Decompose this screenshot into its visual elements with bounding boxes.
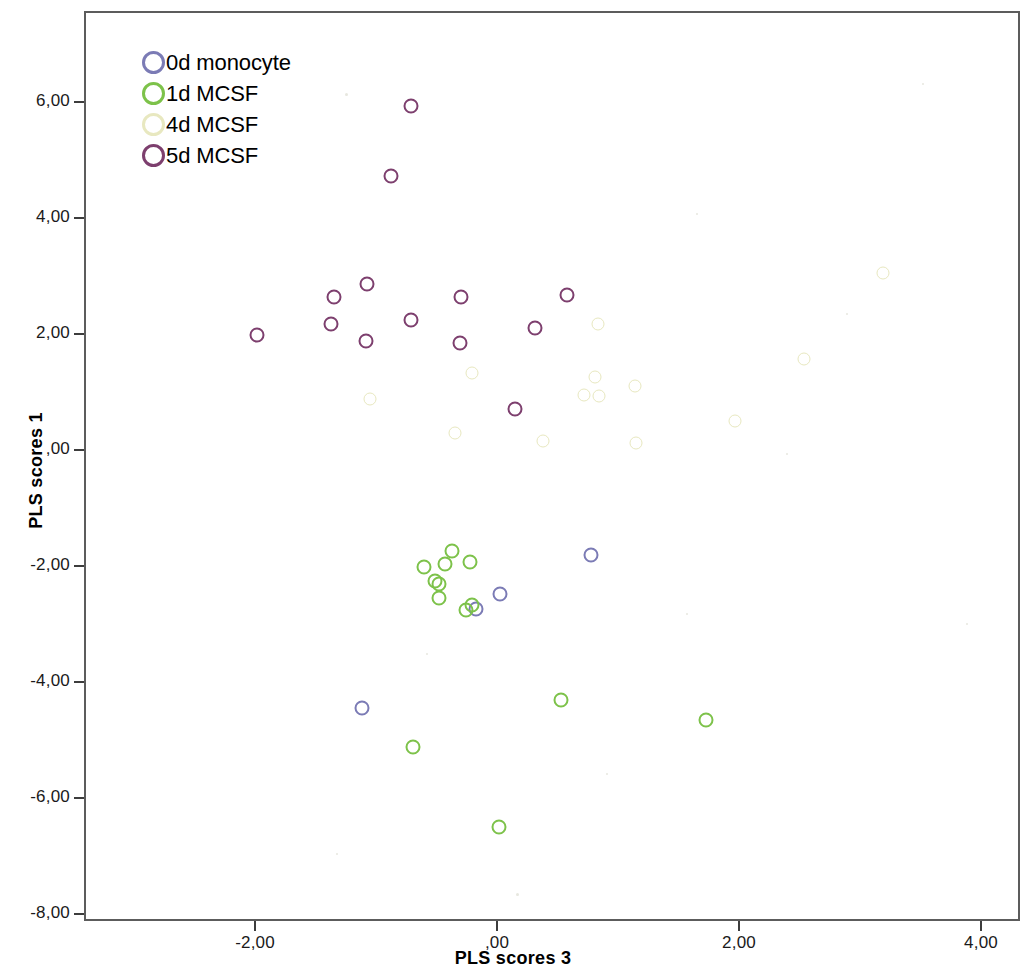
legend-label-0d-monocyte: 0d monocyte bbox=[166, 52, 291, 74]
data-point bbox=[593, 389, 606, 402]
data-point bbox=[628, 380, 641, 393]
legend-swatch-1d-mcsf bbox=[142, 82, 165, 105]
y-tick-mark bbox=[74, 797, 84, 799]
legend-swatch-0d-monocyte bbox=[142, 51, 165, 74]
y-tick-mark bbox=[74, 913, 84, 915]
data-point bbox=[559, 288, 574, 303]
y-tick-mark bbox=[74, 217, 84, 219]
data-point bbox=[358, 334, 373, 349]
data-point bbox=[431, 591, 446, 606]
legend-item-1d-mcsf[interactable]: 1d MCSF bbox=[142, 79, 291, 108]
y-tick-label: -6,00 bbox=[0, 787, 70, 807]
data-point bbox=[698, 712, 713, 727]
scan-speckle bbox=[606, 773, 608, 775]
data-point bbox=[728, 414, 741, 427]
y-tick-label: 6,00 bbox=[0, 91, 70, 111]
data-point bbox=[453, 335, 468, 350]
y-tick-label: -8,00 bbox=[0, 903, 70, 923]
scan-speckle bbox=[846, 313, 848, 315]
y-axis-title: PLS scores 1 bbox=[26, 391, 47, 551]
y-tick-mark bbox=[74, 565, 84, 567]
data-point bbox=[583, 547, 598, 562]
data-point bbox=[250, 328, 265, 343]
data-point bbox=[454, 290, 469, 305]
legend-item-5d-mcsf[interactable]: 5d MCSF bbox=[142, 141, 291, 170]
y-tick-mark bbox=[74, 333, 84, 335]
x-tick-mark bbox=[980, 921, 982, 931]
data-point bbox=[406, 740, 421, 755]
data-point bbox=[797, 352, 810, 365]
data-point bbox=[384, 168, 399, 183]
scan-speckle bbox=[696, 213, 698, 215]
x-tick-mark bbox=[254, 921, 256, 931]
data-point bbox=[327, 290, 342, 305]
data-point bbox=[444, 544, 459, 559]
data-point bbox=[876, 267, 889, 280]
x-axis-title: PLS scores 3 bbox=[0, 948, 1026, 969]
data-point bbox=[431, 576, 446, 591]
legend: 0d monocyte 1d MCSF 4d MCSF 5d MCSF bbox=[142, 48, 291, 170]
data-point bbox=[466, 367, 479, 380]
data-point bbox=[536, 434, 549, 447]
data-point bbox=[462, 555, 477, 570]
scan-speckle bbox=[516, 893, 519, 896]
scan-speckle bbox=[786, 453, 788, 455]
data-point bbox=[363, 393, 376, 406]
scan-speckle bbox=[922, 83, 924, 85]
scan-speckle bbox=[345, 93, 348, 96]
y-tick-label: 2,00 bbox=[0, 323, 70, 343]
y-tick-label: ,00 bbox=[0, 439, 70, 459]
legend-label-4d-mcsf: 4d MCSF bbox=[166, 114, 258, 136]
data-point bbox=[360, 276, 375, 291]
data-point bbox=[437, 556, 452, 571]
x-tick-mark bbox=[738, 921, 740, 931]
scan-speckle bbox=[686, 613, 688, 615]
plot-area: 0d monocyte 1d MCSF 4d MCSF 5d MCSF bbox=[84, 11, 1020, 921]
data-point bbox=[449, 426, 462, 439]
legend-label-1d-mcsf: 1d MCSF bbox=[166, 83, 258, 105]
data-point bbox=[553, 692, 568, 707]
legend-item-4d-mcsf[interactable]: 4d MCSF bbox=[142, 110, 291, 139]
data-point bbox=[592, 317, 605, 330]
scan-speckle bbox=[426, 653, 428, 655]
y-tick-mark bbox=[74, 449, 84, 451]
legend-swatch-5d-mcsf bbox=[142, 144, 165, 167]
scan-speckle bbox=[966, 623, 968, 625]
y-tick-label: -2,00 bbox=[0, 555, 70, 575]
data-point bbox=[507, 402, 522, 417]
legend-swatch-4d-mcsf bbox=[142, 113, 165, 136]
data-point bbox=[403, 313, 418, 328]
data-point bbox=[492, 820, 507, 835]
data-point bbox=[528, 320, 543, 335]
legend-item-0d-monocyte[interactable]: 0d monocyte bbox=[142, 48, 291, 77]
y-tick-mark bbox=[74, 681, 84, 683]
y-tick-mark bbox=[74, 101, 84, 103]
scan-speckle bbox=[336, 853, 338, 855]
pls-scatter-plot: PLS scores 1 6,004,002,00,00-2,00-4,00-6… bbox=[0, 0, 1026, 979]
y-tick-label: 4,00 bbox=[0, 207, 70, 227]
y-tick-label: -4,00 bbox=[0, 671, 70, 691]
data-point bbox=[465, 598, 480, 613]
data-point bbox=[403, 99, 418, 114]
data-point bbox=[577, 389, 590, 402]
legend-label-5d-mcsf: 5d MCSF bbox=[166, 145, 258, 167]
data-point bbox=[323, 316, 338, 331]
data-point bbox=[355, 700, 370, 715]
data-point bbox=[588, 371, 601, 384]
data-point bbox=[416, 559, 431, 574]
x-tick-mark bbox=[496, 921, 498, 931]
data-point bbox=[629, 436, 642, 449]
data-point bbox=[493, 586, 508, 601]
